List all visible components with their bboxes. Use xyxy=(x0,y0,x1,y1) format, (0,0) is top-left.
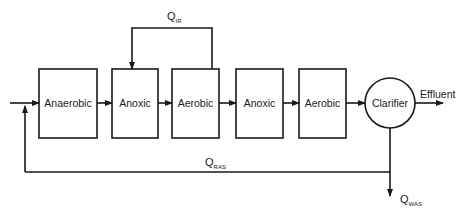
process-diagram: Anaerobic Anoxic Aerobic Anoxic Aerobic … xyxy=(0,0,469,208)
qwas-label: QWAS xyxy=(400,193,422,207)
aerobic-1-label: Aerobic xyxy=(178,97,214,109)
aerobic-2-label: Aerobic xyxy=(305,97,341,109)
qras-label: QRAS xyxy=(205,156,226,170)
anoxic-1-label: Anoxic xyxy=(119,97,151,109)
qir-label: QIR xyxy=(167,10,182,24)
internal-recycle-loop xyxy=(132,28,212,69)
effluent-label: Effluent xyxy=(420,88,455,100)
anaerobic-label: Anaerobic xyxy=(44,97,91,109)
clarifier-label: Clarifier xyxy=(372,97,409,109)
anoxic-2-label: Anoxic xyxy=(244,97,276,109)
